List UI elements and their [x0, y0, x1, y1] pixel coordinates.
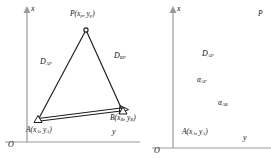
diagram-panel-left: x y O P(xp, yp) A(xA, yA) B(xB, yB) DAP …	[0, 0, 140, 159]
left-distance-AP-sub: AP	[46, 61, 52, 66]
right-angle-label-alpha-AB: αAB	[218, 99, 228, 108]
left-distance-BP-sub: BP	[120, 55, 126, 60]
left-origin-label: O	[8, 141, 14, 149]
left-segment-PB	[86, 30, 123, 112]
right-distance-AP-sub: AP	[208, 53, 214, 58]
left-point-label-P: P(xp, yp)	[70, 10, 95, 19]
left-point-P-mid: , y	[83, 9, 90, 18]
right-x-axis-label: x	[177, 5, 181, 13]
left-point-B-close: )	[133, 113, 136, 122]
left-point-label-B: B(xB, yB)	[110, 114, 136, 123]
right-point-label-P: P	[258, 10, 263, 18]
left-vertex-P	[84, 28, 88, 32]
left-baseline-AB-lower	[39, 111, 121, 121]
left-baseline-AB-upper	[38, 108, 121, 119]
panel-left-graphics	[0, 0, 140, 159]
left-distance-label-BP: DBP	[114, 52, 126, 61]
right-origin-label: O	[154, 147, 160, 155]
figure-canvas: x y O P(xp, yp) A(xA, yA) B(xB, yB) DAP …	[0, 0, 271, 159]
left-x-axis-label: x	[31, 5, 35, 13]
right-point-A-close: )	[205, 127, 208, 136]
left-distance-label-AP: DAP	[40, 58, 52, 67]
left-vertex-A	[34, 116, 42, 123]
left-y-axis-label: y	[112, 128, 116, 136]
right-angle-AP-sub: AP	[201, 79, 207, 84]
left-point-A-close: )	[49, 125, 52, 134]
left-segment-AP	[38, 30, 86, 120]
right-y-axis-label: y	[243, 134, 247, 142]
right-distance-label-AP: DAP	[202, 50, 214, 59]
right-angle-AB-sub: AB	[222, 102, 228, 107]
diagram-panel-right: x y O P A(xA, yA) DAP αAP αAB	[140, 0, 271, 159]
left-point-label-A: A(xA, yA)	[26, 126, 52, 135]
left-point-P-close: )	[92, 9, 95, 18]
right-point-label-A: A(xA, yA)	[182, 128, 208, 137]
right-angle-label-alpha-AP: αAP	[197, 76, 207, 85]
